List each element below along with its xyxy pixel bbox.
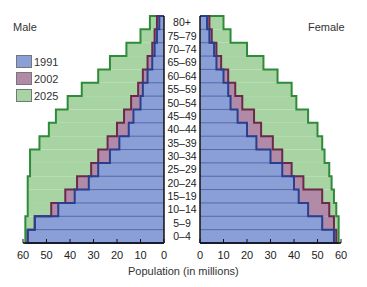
bar-female-1991 <box>200 16 207 29</box>
x-tick-label: 40 <box>288 249 300 261</box>
female-bars <box>200 16 339 243</box>
age-label: 15–19 <box>167 190 196 202</box>
male-label: Male <box>13 21 37 33</box>
bar-male-1991 <box>119 136 164 149</box>
bar-male-1991 <box>157 29 164 42</box>
age-label: 65–69 <box>167 56 196 68</box>
age-label: 40–44 <box>167 123 196 135</box>
bar-female-1991 <box>200 123 247 136</box>
x-tick-label: 0 <box>197 249 203 261</box>
bar-male-1991 <box>110 150 164 163</box>
legend-swatch-2002 <box>16 72 32 85</box>
legend: 1991 2002 2025 <box>16 53 58 104</box>
age-label: 5–9 <box>173 217 191 229</box>
age-label: 70–74 <box>167 43 196 55</box>
bar-female-1991 <box>200 216 322 229</box>
x-tick-label: 0 <box>161 249 167 261</box>
bar-female-1991 <box>200 69 224 82</box>
bar-male-1991 <box>129 123 164 136</box>
age-label: 0–4 <box>173 230 191 242</box>
age-label: 60–64 <box>167 70 196 82</box>
legend-item-2025: 2025 <box>16 87 58 104</box>
legend-label: 2025 <box>34 90 58 102</box>
age-label: 45–49 <box>167 110 196 122</box>
bar-female-1991 <box>200 109 238 122</box>
legend-swatch-1991 <box>16 55 32 68</box>
legend-swatch-2025 <box>16 89 32 102</box>
bar-male-1991 <box>143 83 164 96</box>
x-tick-label: 50 <box>311 249 323 261</box>
x-tick-label: 20 <box>241 249 253 261</box>
bar-female-1991 <box>200 150 271 163</box>
age-label: 25–29 <box>167 163 196 175</box>
x-tick-label: 10 <box>134 249 146 261</box>
bar-male-1991 <box>98 163 164 176</box>
bar-female-1991 <box>200 190 299 203</box>
legend-label: 2002 <box>34 73 58 85</box>
legend-label: 1991 <box>34 56 58 68</box>
age-label: 30–34 <box>167 150 196 162</box>
bar-female-1991 <box>200 43 214 56</box>
x-tick-label: 30 <box>264 249 276 261</box>
bar-male-1991 <box>35 216 164 229</box>
age-group-labels: 80+75–7970–7465–6960–6455–5950–5445–4940… <box>167 16 196 242</box>
age-label: 10–14 <box>167 203 196 215</box>
bar-male-1991 <box>148 69 164 82</box>
bar-male-1991 <box>155 43 164 56</box>
bar-female-1991 <box>200 83 228 96</box>
legend-item-1991: 1991 <box>16 53 58 70</box>
bar-male-1991 <box>133 109 164 122</box>
bar-female-1991 <box>200 163 282 176</box>
age-label: 20–24 <box>167 177 196 189</box>
bar-female-1991 <box>200 136 256 149</box>
bar-male-1991 <box>75 190 164 203</box>
bar-female-1991 <box>200 29 209 42</box>
age-label: 75–79 <box>167 30 196 42</box>
age-label: 80+ <box>173 16 191 28</box>
bar-male-1991 <box>141 96 165 109</box>
female-label: Female <box>308 21 345 33</box>
legend-item-2002: 2002 <box>16 70 58 87</box>
age-label: 55–59 <box>167 83 196 95</box>
bar-female-1991 <box>200 230 334 243</box>
male-bars <box>23 16 164 243</box>
x-tick-label: 40 <box>64 249 76 261</box>
age-label: 50–54 <box>167 97 196 109</box>
x-tick-label: 60 <box>335 249 347 261</box>
x-axis-title: Population (in millions) <box>128 265 239 277</box>
bar-male-1991 <box>152 56 164 69</box>
age-label: 35–39 <box>167 137 196 149</box>
bar-female-1991 <box>200 56 216 69</box>
bar-female-1991 <box>200 176 294 189</box>
bar-female-1991 <box>200 96 231 109</box>
bar-male-1991 <box>58 203 164 216</box>
x-tick-label: 10 <box>217 249 229 261</box>
x-tick-label: 60 <box>17 249 29 261</box>
bar-female-1991 <box>200 203 308 216</box>
x-tick-label: 50 <box>40 249 52 261</box>
bar-male-1991 <box>89 176 164 189</box>
population-pyramid-chart: 80+75–7970–7465–6960–6455–5950–5445–4940… <box>0 0 367 287</box>
x-tick-label: 30 <box>87 249 99 261</box>
x-tick-label: 20 <box>111 249 123 261</box>
bar-male-1991 <box>28 230 164 243</box>
